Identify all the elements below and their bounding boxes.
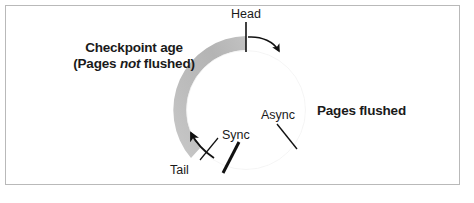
checkpoint-age-line2: (Pages not flushed) — [63, 56, 205, 72]
head-flow-arrow — [248, 37, 279, 51]
checkpoint-age-label: Checkpoint age (Pages not flushed) — [63, 40, 205, 72]
pages-flushed-label: Pages flushed — [317, 103, 406, 119]
diagram-figure: Head Tail Sync Async Pages flushed Check… — [0, 0, 474, 203]
async-label: Async — [261, 108, 295, 123]
diagram-canvas — [0, 0, 474, 203]
tail-label: Tail — [170, 163, 189, 178]
checkpoint-age-line2-pre: (Pages — [73, 56, 120, 71]
checkpoint-age-line2-post: flushed) — [140, 56, 194, 71]
checkpoint-age-line2-emphasis: not — [120, 56, 140, 71]
sync-label: Sync — [222, 128, 250, 143]
checkpoint-age-line1: Checkpoint age — [85, 40, 183, 55]
head-label: Head — [231, 7, 261, 22]
